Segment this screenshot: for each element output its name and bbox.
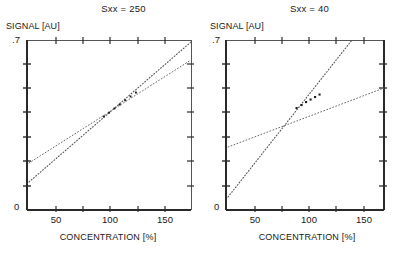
calibration-line-shallow-right bbox=[228, 88, 384, 147]
x-ticks-top-right bbox=[255, 37, 364, 44]
panel-divider bbox=[201, 0, 202, 261]
x-ticks-top-left bbox=[56, 37, 165, 44]
plot-area-left bbox=[0, 0, 203, 261]
calibration-line-steep-right bbox=[228, 40, 352, 197]
chart-panel-left: Sxx = 250 SIGNAL [AU] .7 0 50 100 150 CO… bbox=[0, 0, 203, 261]
y-minor-ticks-right-spine-left bbox=[187, 64, 194, 186]
plot-area-right bbox=[202, 0, 405, 261]
figure-two-panel-calibration-plots: Sxx = 250 SIGNAL [AU] .7 0 50 100 150 CO… bbox=[0, 0, 405, 261]
x-ticks-left bbox=[56, 206, 165, 212]
x-ticks-right bbox=[255, 206, 364, 212]
y-minor-ticks-right-spine-right bbox=[379, 64, 387, 186]
chart-panel-right: Sxx = 40 SIGNAL [AU] .7 0 50 100 150 CON… bbox=[202, 0, 405, 261]
calibration-line-shallow-left bbox=[29, 60, 191, 163]
